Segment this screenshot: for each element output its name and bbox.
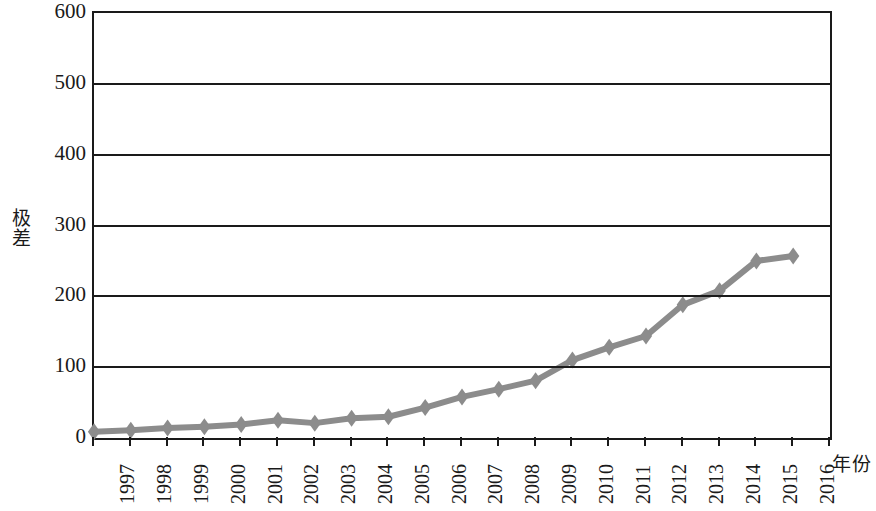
data-point-marker: [235, 416, 247, 433]
x-tick: [644, 437, 646, 446]
x-tick: [276, 437, 278, 446]
gridline: [94, 154, 830, 156]
x-tick-label: 2007: [485, 464, 505, 504]
y-axis-tick-labels: 0100200300400500600: [18, 0, 86, 447]
gridline: [94, 366, 830, 368]
x-tick: [460, 437, 462, 446]
x-tick: [607, 437, 609, 446]
data-point-marker: [272, 412, 284, 429]
x-tick-label: 2009: [559, 464, 579, 504]
data-point-marker: [419, 399, 431, 416]
x-tick-label: 1999: [191, 464, 211, 504]
x-axis-title: 年份: [832, 455, 872, 475]
gridline: [94, 295, 830, 297]
x-tick-label: 2001: [265, 464, 285, 504]
data-point-marker: [382, 408, 394, 425]
data-point-marker: [493, 381, 505, 398]
x-tick-label: 2010: [596, 464, 616, 504]
plot-area: [92, 11, 832, 440]
x-tick: [570, 437, 572, 446]
x-tick: [423, 437, 425, 446]
y-tick-label: 500: [18, 72, 86, 93]
x-tick: [681, 437, 683, 446]
x-tick-label: 2002: [301, 464, 321, 504]
x-tick: [791, 437, 793, 446]
x-tick-label: 1997: [117, 464, 137, 504]
data-point-marker: [603, 339, 615, 356]
y-tick-label: 300: [18, 214, 86, 235]
x-tick-label: 2015: [780, 464, 800, 504]
x-tick-label: 2013: [706, 464, 726, 504]
data-point-marker: [787, 247, 799, 264]
gridline: [94, 83, 830, 85]
data-point-marker: [161, 420, 173, 437]
y-tick-label: 200: [18, 284, 86, 305]
x-tick-label: 2006: [449, 464, 469, 504]
x-tick: [497, 437, 499, 446]
series-line: [94, 256, 793, 432]
x-axis-tick-labels: 1997199819992000200120022003200420052006…: [92, 446, 832, 508]
x-tick-label: 2014: [743, 464, 763, 504]
x-tick: [202, 437, 204, 446]
x-tick: [350, 437, 352, 446]
x-tick: [92, 437, 94, 446]
data-point-marker: [198, 418, 210, 435]
x-tick-label: 2003: [338, 464, 358, 504]
data-point-marker: [456, 388, 468, 405]
data-point-marker: [309, 415, 321, 432]
x-tick: [129, 437, 131, 446]
x-tick: [534, 437, 536, 446]
x-tick-label: 2011: [633, 465, 653, 504]
data-point-marker: [345, 410, 357, 427]
x-tick: [754, 437, 756, 446]
x-tick: [386, 437, 388, 446]
x-tick-label: 2008: [522, 464, 542, 504]
line-chart: 极差 0100200300400500600 19971998199920002…: [0, 0, 876, 511]
x-tick: [313, 437, 315, 446]
gridline: [94, 225, 830, 227]
x-tick: [239, 437, 241, 446]
y-tick-label: 100: [18, 355, 86, 376]
x-tick-label: 1998: [154, 464, 174, 504]
x-tick-label: 2004: [375, 464, 395, 504]
x-tick: [718, 437, 720, 446]
x-tick-label: 2012: [669, 464, 689, 504]
x-tick: [166, 437, 168, 446]
x-tick-label: 2005: [412, 464, 432, 504]
y-tick-label: 400: [18, 143, 86, 164]
y-tick-label: 0: [18, 426, 86, 447]
y-tick-label: 600: [18, 1, 86, 22]
x-tick-label: 2000: [228, 464, 248, 504]
x-tick: [828, 437, 830, 446]
data-point-marker: [529, 372, 541, 389]
